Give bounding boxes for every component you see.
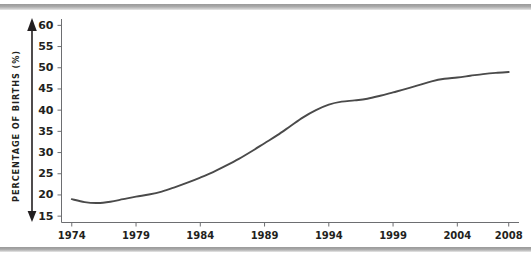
x-tick-label: 1989 — [251, 230, 279, 241]
x-tick-label: 1984 — [186, 230, 214, 241]
y-tick-label: 45 — [38, 82, 53, 95]
x-tick-label: 2004 — [443, 230, 471, 241]
x-tick-label: 1999 — [379, 230, 407, 241]
y-tick-label: 20 — [38, 188, 54, 201]
y-axis-arrow-icon — [27, 18, 37, 222]
chart-figure: PERCENTAGE OF BIRTHS (%) 152025303540455… — [0, 0, 531, 256]
y-tick-label: 55 — [38, 40, 53, 53]
x-tick-label: 2008 — [495, 230, 523, 241]
y-axis-ticks: 15202530354045505560 — [38, 19, 61, 223]
x-axis-ticks: 19741979198419891994199920042008 — [58, 223, 523, 241]
x-tick-label: 1974 — [58, 230, 86, 241]
y-tick-label: 40 — [38, 104, 54, 117]
y-tick-label: 50 — [38, 61, 54, 74]
x-tick-label: 1979 — [122, 230, 150, 241]
y-axis-title: PERCENTAGE OF BIRTHS (%) — [11, 50, 21, 202]
line-chart: PERCENTAGE OF BIRTHS (%) 152025303540455… — [0, 0, 531, 256]
x-tick-label: 1994 — [315, 230, 343, 241]
y-tick-label: 15 — [38, 210, 53, 223]
y-tick-label: 60 — [38, 19, 54, 32]
data-series-line — [72, 72, 509, 203]
y-tick-label: 30 — [38, 146, 54, 159]
y-tick-label: 25 — [38, 167, 53, 180]
y-tick-label: 35 — [38, 125, 53, 138]
